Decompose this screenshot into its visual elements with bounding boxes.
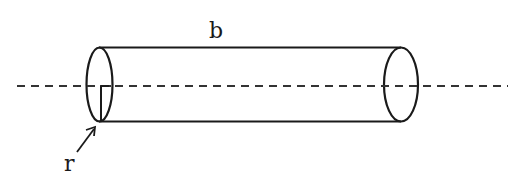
radius-arrow xyxy=(77,129,94,152)
left-end-ellipse xyxy=(87,48,113,122)
radius-label: r xyxy=(64,151,75,176)
length-label: b xyxy=(209,18,223,43)
right-end-ellipse xyxy=(384,48,418,122)
cylinder-diagram: b r xyxy=(0,0,519,184)
